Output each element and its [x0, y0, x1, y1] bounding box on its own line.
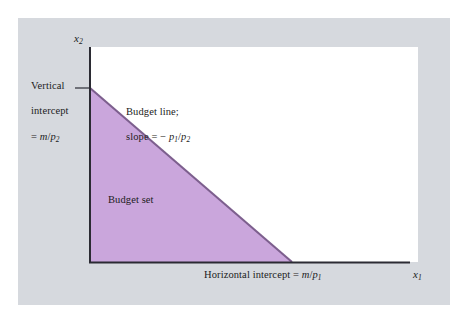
figure-panel: x2 x1 Vertical intercept = m/p2 Budget l… [18, 18, 450, 305]
horizontal-intercept-prefix: Horizontal intercept = [204, 269, 302, 280]
budget-line-annotation-line1: Budget line; [126, 106, 190, 119]
budget-set-label: Budget set [108, 194, 154, 207]
vertical-intercept-denominator-subscript: 2 [56, 135, 60, 144]
budget-line-annotation: Budget line; slope = − p1/p2 [126, 93, 190, 157]
vertical-intercept-line1: Vertical [31, 80, 69, 93]
y-axis-label: x2 [74, 32, 83, 45]
vertical-intercept-line3: = m/p2 [31, 131, 69, 144]
y-axis-label-subscript: 2 [79, 37, 83, 46]
vertical-intercept-eq: = [31, 131, 40, 142]
x-axis-label: x1 [413, 268, 422, 281]
x-axis-label-subscript: 1 [418, 273, 422, 282]
slope-prefix: slope = − [126, 131, 169, 142]
vertical-intercept-annotation: Vertical intercept = m/p2 [31, 67, 69, 157]
budget-constraint-figure: x2 x1 Vertical intercept = m/p2 Budget l… [0, 0, 463, 318]
slope-numerator-subscript: 1 [174, 135, 178, 144]
chart-graphics [18, 18, 450, 305]
horizontal-intercept-denominator-subscript: 1 [318, 273, 322, 282]
horizontal-intercept-denominator: p [312, 269, 317, 280]
slope-denominator-subscript: 2 [186, 135, 190, 144]
budget-line-annotation-line2: slope = − p1/p2 [126, 131, 190, 144]
vertical-intercept-line2: intercept [31, 105, 69, 118]
horizontal-intercept-annotation: Horizontal intercept = m/p1 [204, 269, 322, 282]
